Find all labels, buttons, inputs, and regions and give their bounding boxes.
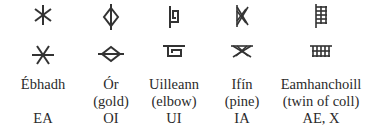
ebhadh-vertical-icon <box>32 4 54 26</box>
uilleann-vertical-icon <box>166 4 182 28</box>
eamhanchoill-vertical-icon <box>314 4 328 28</box>
or-vertical-icon <box>101 4 121 30</box>
uilleann-horizontal-icon <box>163 44 185 58</box>
eamhanchoill-horizontal-icon <box>310 44 332 58</box>
column-ifin: Ifín (pine) IA <box>197 0 287 135</box>
letter-transliteration: IA <box>197 110 287 127</box>
or-horizontal-icon <box>98 44 124 64</box>
column-eamhanchoill: Eamhanchoill (twin of coll) AE, X <box>276 0 366 135</box>
ifin-vertical-icon <box>234 4 250 28</box>
ebhadh-horizontal-icon <box>31 44 55 66</box>
letter-name: Ifín <box>197 76 287 93</box>
letter-gloss: (twin of coll) <box>276 93 366 110</box>
letter-name: Eamhanchoill <box>276 76 366 93</box>
letter-transliteration: AE, X <box>276 110 366 127</box>
letter-gloss: (pine) <box>197 93 287 110</box>
ifin-horizontal-icon <box>231 44 253 58</box>
